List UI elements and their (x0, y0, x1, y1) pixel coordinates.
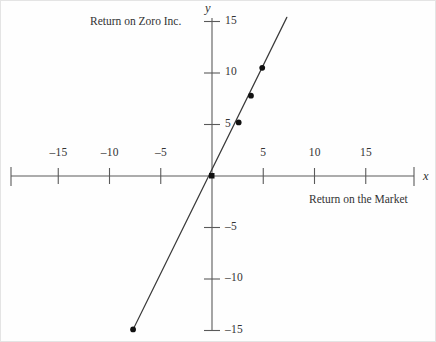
x-tick-label: –15 (50, 147, 68, 159)
x-axis-symbol: x (423, 170, 429, 183)
origin-marker (209, 173, 215, 179)
x-tick-label: –5 (155, 147, 167, 159)
y-tick-label: 5 (225, 118, 231, 130)
y-tick-label: 10 (225, 66, 237, 78)
scatter-plot-canvas (0, 0, 436, 342)
series-title-label: Return on Zoro Inc. (90, 16, 181, 28)
x-tick-label: 5 (260, 147, 266, 159)
chart-figure: –15–10–55101515105–5–10–15 y x Return on… (0, 0, 436, 342)
y-tick-label: 15 (225, 15, 237, 27)
data-point-marker (259, 65, 265, 71)
x-tick-label: 10 (309, 147, 321, 159)
y-tick-label: –10 (225, 272, 243, 284)
data-point-marker (236, 120, 242, 126)
x-axis-caption-label: Return on the Market (309, 194, 408, 206)
y-tick-label: –15 (225, 324, 243, 336)
x-tick-label: –10 (101, 147, 119, 159)
data-point-marker (130, 327, 136, 333)
data-point-marker (248, 93, 254, 99)
y-axis-symbol: y (205, 2, 211, 15)
x-tick-label: 15 (360, 147, 372, 159)
y-tick-label: –5 (225, 221, 237, 233)
